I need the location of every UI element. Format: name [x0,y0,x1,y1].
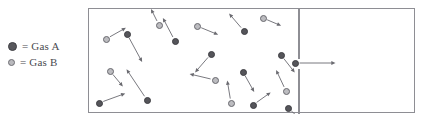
legend-label-a: Gas A [31,40,59,52]
velocity-arrow-shaft [113,74,121,84]
divider-wall-upper [298,9,300,59]
gas-particle-b [103,36,110,43]
velocity-arrow-head [138,57,142,62]
gas-particle-a [250,102,257,109]
velocity-arrow-shaft [277,73,284,87]
legend-equals-b: = [20,56,26,68]
velocity-arrows-layer [89,9,416,114]
velocity-arrow-shaft [128,72,144,97]
velocity-arrow-shaft [257,94,269,102]
legend-item-gas-b-label: = Gas B [20,56,58,68]
velocity-arrow-shaft [201,28,215,34]
velocity-arrow-head [331,61,335,65]
gas-effusion-figure: = Gas A = Gas B [0,0,430,128]
gas-particle-a [208,51,215,58]
velocity-arrow-shaft [197,57,208,70]
gas-particle-a [292,60,299,67]
velocity-arrow-head [214,31,219,35]
velocity-arrow-head [127,69,131,74]
gas-particle-b [260,15,267,22]
velocity-arrow-shaft [129,38,141,59]
gas-particle-a [172,38,179,45]
gas-b-dot-icon [8,59,15,66]
velocity-arrow-head [121,93,126,97]
gas-particle-a [144,97,151,104]
velocity-arrow-shaft [164,21,173,37]
gas-particle-a [240,69,247,76]
gas-particle-b [107,68,114,75]
velocity-arrow-shaft [193,75,211,79]
velocity-arrow-shaft [103,94,122,101]
velocity-arrow-head [163,18,167,23]
velocity-arrow-head [119,82,123,86]
velocity-arrow-head [277,22,282,25]
legend-item-gas-a-label: = Gas A [22,40,60,52]
gas-particle-b [156,22,163,29]
velocity-arrow-head [266,92,271,96]
legend-label-b: Gas B [29,56,57,68]
gas-particle-b [212,77,219,84]
legend-equals-a: = [22,40,28,52]
legend: = Gas A = Gas B [8,38,86,70]
velocity-arrow-head [291,68,295,72]
gas-container [88,8,415,113]
velocity-arrow-head [195,68,199,72]
legend-item-gas-b: = Gas B [8,54,86,70]
gas-particle-a [278,52,285,59]
velocity-arrow-shaft [110,29,123,37]
gas-particle-a [124,31,131,38]
gas-particle-b [228,100,235,107]
velocity-arrow-head [190,73,195,77]
gas-particle-a [96,100,103,107]
velocity-arrow-shaft [231,16,241,28]
gas-a-dot-icon [8,42,17,51]
velocity-arrow-head [226,81,230,85]
velocity-arrow-head [250,87,254,92]
gas-particle-b [283,88,290,95]
gas-particle-a [241,28,248,35]
gas-particle-a [285,105,292,112]
velocity-arrow-shaft [228,84,231,99]
velocity-arrow-head [151,9,155,14]
velocity-arrow-shaft [245,76,253,89]
velocity-arrow-shaft [152,12,157,21]
legend-item-gas-a: = Gas A [8,38,86,54]
divider-wall-lower [298,69,300,114]
velocity-arrow-shaft [267,20,278,25]
velocity-arrow-head [229,14,233,18]
velocity-arrow-head [276,70,280,75]
gas-particle-b [194,23,201,30]
